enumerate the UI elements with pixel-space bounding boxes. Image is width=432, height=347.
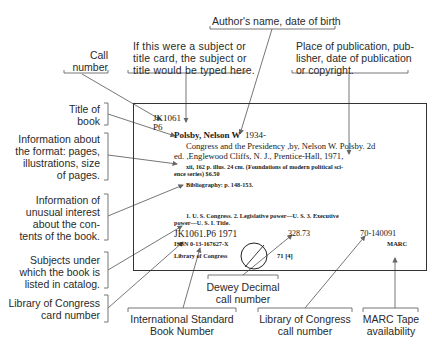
title-statement: Congress and the Presidency ,by, Nelson … (186, 141, 375, 151)
label-place-of-publication: Place of publication, pub-lisher, date o… (296, 40, 416, 76)
tracings: 1. U. S. Congress. 2. Legislative power—… (186, 212, 339, 219)
label-format-info: Information aboutthe format: pages,illus… (0, 133, 100, 181)
tracings-cont: power—U. S. I. Title. (174, 219, 230, 226)
author-heading: Polsby, Nelson W 1934- (174, 130, 266, 140)
print-code: 71 [4] (277, 252, 293, 259)
label-unusual-interest: Information ofunusual interestabout the … (0, 194, 100, 242)
isbn: ISBN 0-13-167627-X (174, 240, 229, 247)
label-call-number: Callnumber (60, 49, 108, 73)
bibliography-note: Bibliography: p. 148-153. (186, 181, 253, 188)
series-price: ence series) $6.50 (174, 170, 220, 177)
label-lc-card-number: Library of Congresscard number (0, 297, 100, 321)
lc-card-number: 70-140091 (360, 229, 396, 238)
label-subjects: Subjects underwhich the book islisted in… (0, 254, 100, 290)
imprint: ed. ,Englewood Cliffs, N. J., Prentice-H… (174, 151, 343, 161)
label-dewey: Dewey Decimalcall number (203, 281, 283, 305)
dewey-number: 328.73 (288, 229, 310, 238)
label-title-of-book: Title ofbook (20, 103, 100, 127)
marc-flag: MARC (387, 240, 407, 247)
lc-call-number: JK1061.P6 1971 (174, 229, 237, 239)
label-lc-call-number: Library of Congresscall number (255, 313, 355, 337)
library-of-congress: Library of Congress (174, 252, 228, 259)
collation: xii, 162 p. illus. 24 cm. (Foundations o… (186, 163, 343, 170)
label-marc: MARC Tapeavailability (360, 313, 422, 337)
label-isbn: International StandardBook Number (124, 313, 240, 337)
label-author: Author's name, date of birth (212, 15, 342, 27)
label-subject-title-card: If this were a subject ortitle card, the… (133, 40, 263, 76)
